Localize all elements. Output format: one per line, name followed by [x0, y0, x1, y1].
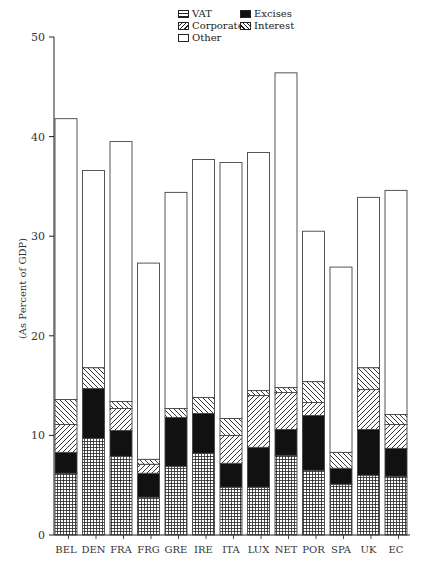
segment-interest — [358, 368, 380, 390]
y-tick-label: 10 — [31, 429, 45, 442]
segment-interest — [275, 388, 297, 393]
legend-item-excises: Excises — [240, 8, 292, 20]
segment-corporate — [110, 409, 132, 431]
bar-fra — [110, 142, 132, 535]
segment-other — [220, 162, 242, 418]
legend-item-interest: Interest — [240, 20, 294, 32]
segment-interest — [385, 414, 407, 424]
bar-uk — [358, 197, 380, 535]
segment-other — [193, 160, 215, 398]
segment-vat — [138, 497, 160, 535]
x-tick-label: IRE — [194, 544, 213, 555]
legend-item-other: Other — [178, 32, 221, 44]
x-tick-label: ITA — [222, 544, 240, 555]
y-tick-label: 20 — [31, 330, 45, 343]
interest-swatch-icon — [240, 22, 251, 30]
x-axis-labels: BELDENFRAFRGGREIREITALUXNETPORSPAUKEC — [55, 544, 403, 555]
y-tick-label: 0 — [38, 529, 45, 542]
segment-corporate — [138, 464, 160, 473]
segment-vat — [55, 473, 77, 535]
segment-other — [248, 153, 270, 391]
segment-corporate — [55, 424, 77, 452]
segment-other — [165, 192, 187, 408]
x-tick-label: LUX — [248, 544, 271, 555]
segment-other — [138, 263, 160, 459]
segment-vat — [193, 453, 215, 535]
legend-item-corporate: Corporate — [178, 20, 244, 32]
segment-excises — [193, 413, 215, 453]
segment-interest — [138, 459, 160, 464]
segment-excises — [385, 448, 407, 476]
x-tick-label: BEL — [55, 544, 77, 555]
legend-item-vat: VAT — [178, 8, 212, 20]
segment-interest — [165, 409, 187, 418]
x-tick-label: FRA — [110, 544, 132, 555]
segment-vat — [248, 487, 270, 535]
segment-corporate — [220, 435, 242, 463]
x-tick-label: SPA — [331, 544, 352, 555]
segment-other — [275, 73, 297, 388]
segment-excises — [110, 430, 132, 456]
y-tick-label: 30 — [31, 230, 45, 243]
y-axis-label: (As Percent of GDP) — [17, 229, 28, 349]
segment-other — [358, 197, 380, 367]
segment-excises — [55, 452, 77, 473]
segment-interest — [83, 368, 105, 389]
segment-corporate — [303, 403, 325, 416]
segment-corporate — [385, 424, 407, 448]
bar-spa — [330, 267, 352, 535]
segment-excises — [358, 429, 380, 475]
vat-swatch-icon — [178, 10, 189, 18]
segment-excises — [138, 473, 160, 497]
segment-other — [110, 142, 132, 402]
segment-other — [55, 119, 77, 400]
bar-net — [275, 73, 297, 535]
bar-lux — [248, 153, 270, 535]
segment-vat — [220, 487, 242, 535]
segment-interest — [220, 418, 242, 435]
segment-excises — [330, 468, 352, 484]
segment-interest — [303, 382, 325, 403]
corporate-swatch-icon — [178, 22, 189, 30]
segment-other — [303, 231, 325, 381]
segment-vat — [165, 466, 187, 535]
segment-vat — [83, 438, 105, 535]
segment-other — [330, 267, 352, 452]
bar-ec — [385, 190, 407, 535]
excises-swatch-icon — [240, 10, 251, 18]
bar-gre — [165, 192, 187, 535]
segment-interest — [248, 391, 270, 396]
y-tick-label: 50 — [31, 31, 45, 44]
segment-excises — [165, 417, 187, 466]
segment-excises — [220, 463, 242, 487]
segment-other — [83, 170, 105, 367]
y-tick-label: 40 — [31, 131, 45, 144]
segment-vat — [330, 484, 352, 535]
x-tick-label: UK — [361, 544, 377, 555]
segment-vat — [275, 455, 297, 535]
segment-corporate — [248, 396, 270, 448]
segment-excises — [275, 429, 297, 455]
bar-bel — [55, 119, 77, 535]
segment-vat — [110, 456, 132, 535]
x-tick-label: DEN — [81, 544, 105, 555]
segment-excises — [83, 389, 105, 439]
x-tick-label: EC — [389, 544, 404, 555]
segment-vat — [358, 475, 380, 535]
other-swatch-icon — [178, 34, 189, 42]
segment-interest — [110, 402, 132, 409]
x-tick-label: FRG — [137, 544, 159, 555]
segment-vat — [303, 470, 325, 535]
segment-interest — [193, 398, 215, 414]
segment-corporate — [275, 393, 297, 430]
x-tick-label: POR — [302, 544, 325, 555]
stacked-bar-chart: 01020304050 BELDENFRAFRGGREIREITALUXNETP… — [0, 0, 429, 570]
segment-other — [385, 190, 407, 414]
segment-excises — [303, 415, 325, 470]
bar-por — [303, 231, 325, 535]
segment-interest — [330, 452, 352, 468]
bars — [55, 73, 407, 535]
bar-den — [83, 170, 105, 535]
bar-frg — [138, 263, 160, 535]
bar-ire — [193, 160, 215, 535]
